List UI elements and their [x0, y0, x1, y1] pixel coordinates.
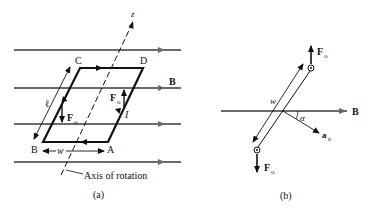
normal-label: a — [322, 130, 327, 140]
current-arrow-icon — [115, 108, 121, 114]
caption-a: (a) — [93, 189, 104, 201]
z-axis-label: z — [130, 9, 135, 19]
current-arrow-icon — [96, 65, 103, 71]
arrow-icon — [158, 47, 165, 53]
conductor-out-bottom — [254, 147, 260, 153]
dot-icon — [256, 149, 258, 151]
width-dimension-arrow-b — [253, 64, 303, 142]
figure-a: z C D B A B ℓ w F o F o I Axis of rotati… — [14, 9, 181, 201]
arrow-icon — [158, 85, 165, 91]
axis-leader-line — [66, 170, 83, 174]
coil-loop — [43, 68, 143, 142]
force-label-left: F — [67, 112, 73, 123]
field-label-b2: B — [352, 106, 359, 117]
corner-label-d: D — [140, 55, 147, 66]
force-subscript-right: o — [117, 98, 121, 106]
axis-of-rotation-label: Axis of rotation — [84, 170, 147, 181]
conductor-out-top — [308, 65, 314, 71]
length-label: ℓ — [45, 98, 50, 109]
field-arrowheads — [158, 47, 165, 165]
corner-label-b: B — [31, 144, 38, 155]
force-subscript-left: o — [74, 118, 78, 126]
force-subscript-bottom: o — [271, 168, 275, 176]
caption-b: (b) — [280, 190, 292, 202]
normal-subscript: n — [328, 136, 331, 142]
width-label-b: w — [270, 96, 276, 106]
corner-label-c: C — [75, 55, 82, 66]
arrow-icon — [339, 108, 347, 114]
field-label-b: B — [169, 76, 176, 87]
diagram-canvas: z C D B A B ℓ w F o F o I Axis of rotati… — [0, 0, 371, 212]
current-arrow-icon — [80, 139, 87, 145]
angle-arc — [296, 111, 298, 119]
dot-icon — [310, 67, 312, 69]
width-label: w — [57, 145, 64, 156]
arrow-icon — [158, 159, 165, 165]
rotation-axis — [61, 24, 132, 175]
force-label-right: F — [110, 92, 116, 103]
force-label-bottom: F — [264, 162, 270, 173]
force-subscript-top: o — [324, 52, 328, 60]
corner-label-a: A — [107, 144, 115, 155]
coil-edge — [258, 71, 310, 147]
figure-b: B w F o F o a n α (b) — [221, 46, 359, 202]
force-label-top: F — [317, 46, 323, 57]
current-label: I — [124, 109, 129, 120]
arrow-icon — [158, 121, 165, 127]
axis-arrow-icon — [129, 21, 134, 29]
length-dimension-arrow — [34, 67, 70, 139]
angle-label: α — [300, 113, 305, 123]
